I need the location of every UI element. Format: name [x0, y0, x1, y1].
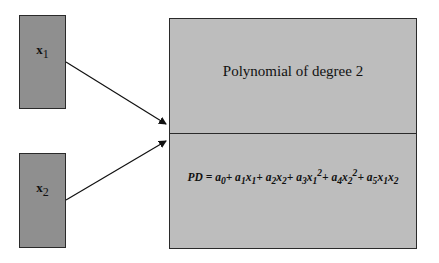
node-title: Polynomial of degree 2: [170, 63, 416, 80]
node-formula: PD = a0+ a1x1+ a2x2+ a3x12+ a4x22+ a5x1x…: [170, 167, 416, 186]
polynomial-node: Polynomial of degree 2 PD = a0+ a1x1+ a2…: [169, 18, 417, 249]
arrow-x2-to-node: [66, 141, 166, 200]
node-divider: [170, 133, 416, 134]
arrow-x1-to-node: [66, 62, 166, 124]
